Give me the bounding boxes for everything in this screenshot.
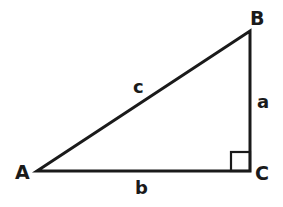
side-label-a: a <box>257 91 269 112</box>
side-label-b: b <box>135 177 148 198</box>
vertex-label-a: A <box>15 161 30 183</box>
triangle-diagram: A B C c a b <box>0 0 283 207</box>
triangle-abc <box>37 31 250 171</box>
side-label-c: c <box>133 76 144 97</box>
vertex-label-c: C <box>255 162 269 184</box>
right-angle-marker <box>231 152 250 171</box>
vertex-label-b: B <box>250 7 264 29</box>
